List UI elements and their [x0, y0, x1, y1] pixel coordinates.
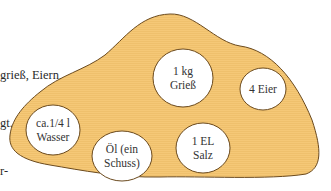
- label-griess-line2: Grieß: [170, 78, 196, 92]
- label-wasser: ca.1/4 l Wasser: [36, 116, 70, 144]
- label-oel: Öl (ein Schuss): [104, 142, 140, 170]
- label-salz-line2: Salz: [192, 148, 215, 162]
- label-griess-line1: 1 kg: [170, 64, 196, 78]
- label-wasser-line1: ca.1/4 l: [36, 116, 70, 130]
- ingredient-diagram: [0, 0, 331, 191]
- label-salz-line1: 1 EL: [192, 134, 215, 148]
- label-eier-line1: 4 Eier: [249, 82, 277, 96]
- label-salz: 1 EL Salz: [192, 134, 215, 162]
- label-eier: 4 Eier: [249, 82, 277, 96]
- label-wasser-line2: Wasser: [36, 130, 70, 144]
- label-oel-line2: Schuss): [104, 156, 140, 170]
- label-oel-line1: Öl (ein: [104, 142, 140, 156]
- label-griess: 1 kg Grieß: [170, 64, 196, 92]
